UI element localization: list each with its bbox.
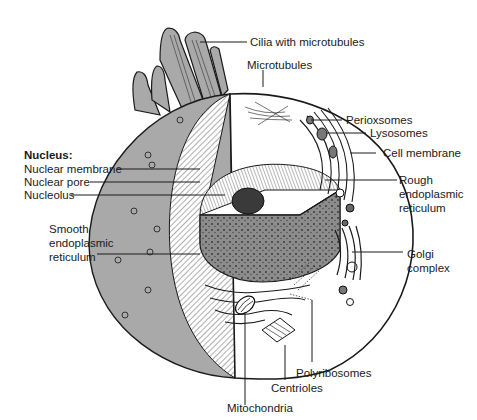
label-smooth-er-line3: reticulum [49,250,114,264]
label-microtubules: Microtubules [247,58,312,72]
label-smooth-er-line1: Smooth [49,222,114,236]
label-rough-er-line3: reticulum [399,201,464,215]
nucleus [200,164,340,282]
nucleolus-shape [232,188,264,214]
lysosome-shape [317,128,327,140]
label-rough-er: Rough endoplasmic reticulum [399,173,464,215]
label-nuclear-pore: Nuclear pore [24,175,90,189]
label-lysosomes: Lysosomes [370,126,428,140]
label-golgi-line1: Golgi [407,247,450,261]
lysosome-shape-2 [329,146,337,158]
label-rough-er-line1: Rough [399,173,464,187]
label-golgi-line2: complex [407,261,450,275]
label-nucleolus: Nucleolus [24,188,75,202]
label-cell-membrane: Cell membrane [383,146,461,160]
label-rough-er-line2: endoplasmic [399,187,464,201]
label-nuclear-membrane: Nuclear membrane [24,162,122,176]
label-mitochondria: Mitochondria [227,401,293,415]
label-perioxsomes: Perioxsomes [346,113,412,127]
label-golgi: Golgi complex [407,247,450,275]
label-polyribosomes: Polyribosomes [296,366,371,380]
label-cilia: Cilia with microtubules [250,35,364,49]
label-centrioles: Centrioles [271,381,323,395]
label-smooth-er: Smooth endoplasmic reticulum [49,222,114,264]
label-smooth-er-line2: endoplasmic [49,236,114,250]
label-nucleus-heading: Nucleus: [24,148,73,162]
